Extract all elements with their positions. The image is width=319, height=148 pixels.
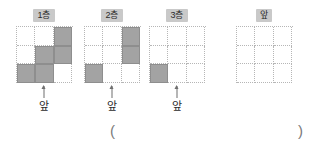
grid-cell[interactable] bbox=[168, 27, 187, 46]
up-arrow-icon bbox=[112, 86, 113, 98]
front-label-1: 앞 bbox=[39, 100, 49, 113]
layer-grid-1 bbox=[16, 26, 73, 83]
grid-cell[interactable] bbox=[168, 64, 187, 83]
front-label-2: 앞 bbox=[107, 100, 117, 113]
floor-label-2: 2층 bbox=[101, 9, 122, 22]
grid-cell[interactable] bbox=[274, 27, 293, 46]
grid-cell[interactable] bbox=[150, 46, 169, 65]
layer-grid-2 bbox=[84, 26, 141, 83]
grid-cell[interactable] bbox=[122, 46, 141, 65]
floor-label-1: 1층 bbox=[33, 9, 54, 22]
front-indicator-2: 앞 bbox=[81, 85, 143, 117]
grid-cell[interactable] bbox=[17, 46, 36, 65]
answer-blank[interactable]: ( ) bbox=[110, 122, 310, 142]
layer-block-3: 3층 앞 bbox=[146, 4, 208, 117]
grid-cell[interactable] bbox=[85, 27, 104, 46]
grid-cell[interactable] bbox=[187, 27, 206, 46]
grid-cell[interactable] bbox=[103, 64, 122, 83]
close-paren: ) bbox=[298, 122, 303, 140]
grid-cell[interactable] bbox=[255, 64, 274, 83]
grid-cell[interactable] bbox=[255, 46, 274, 65]
grid-cell[interactable] bbox=[17, 64, 36, 83]
grid-cell[interactable] bbox=[35, 27, 54, 46]
grid-cell[interactable] bbox=[122, 27, 141, 46]
cube-layer-figure: 1층 앞 2층 bbox=[0, 0, 319, 148]
grid-cell[interactable] bbox=[237, 46, 256, 65]
layer-grid-3 bbox=[149, 26, 206, 83]
grid-cell[interactable] bbox=[255, 27, 274, 46]
layer-grid-answer bbox=[236, 26, 293, 83]
grid-cell[interactable] bbox=[54, 27, 73, 46]
grid-cell[interactable] bbox=[237, 64, 256, 83]
grid-cell[interactable] bbox=[168, 46, 187, 65]
layer-block-answer: 앞 bbox=[233, 4, 295, 83]
grid-cell[interactable] bbox=[103, 27, 122, 46]
grid-cell[interactable] bbox=[85, 64, 104, 83]
grid-cell[interactable] bbox=[274, 46, 293, 65]
grid-cell[interactable] bbox=[35, 64, 54, 83]
grid-cell[interactable] bbox=[187, 46, 206, 65]
up-arrow-icon bbox=[44, 86, 45, 98]
floor-label-3: 3층 bbox=[166, 9, 187, 22]
front-indicator-3: 앞 bbox=[146, 85, 208, 117]
grid-cell[interactable] bbox=[150, 64, 169, 83]
up-arrow-icon bbox=[177, 86, 178, 98]
grid-cell[interactable] bbox=[54, 46, 73, 65]
front-label-3: 앞 bbox=[172, 100, 182, 113]
grid-cell[interactable] bbox=[35, 46, 54, 65]
grid-cell[interactable] bbox=[150, 27, 169, 46]
grid-cell[interactable] bbox=[54, 64, 73, 83]
grid-cell[interactable] bbox=[17, 27, 36, 46]
front-label-answer: 앞 bbox=[256, 9, 272, 22]
grid-cell[interactable] bbox=[187, 64, 206, 83]
grid-cell[interactable] bbox=[122, 64, 141, 83]
grid-cell[interactable] bbox=[85, 46, 104, 65]
layer-block-1: 1층 앞 bbox=[13, 4, 75, 117]
front-indicator-1: 앞 bbox=[13, 85, 75, 117]
layer-block-2: 2층 앞 bbox=[81, 4, 143, 117]
grid-cell[interactable] bbox=[274, 64, 293, 83]
grid-cell[interactable] bbox=[103, 46, 122, 65]
grid-cell[interactable] bbox=[237, 27, 256, 46]
open-paren: ( bbox=[110, 122, 115, 140]
